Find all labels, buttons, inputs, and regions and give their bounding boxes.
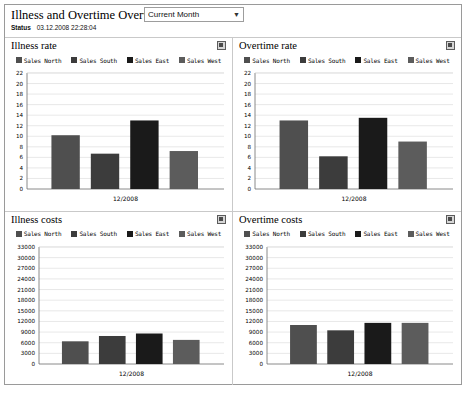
chart-canvas: 024681012141618202212/2008	[5, 67, 232, 211]
svg-text:6: 6	[19, 154, 23, 160]
legend-item[interactable]: Sales East	[355, 57, 397, 64]
legend-label: Sales East	[363, 57, 397, 64]
svg-text:12000: 12000	[245, 318, 263, 324]
period-select[interactable]: Current Month ▼	[144, 7, 244, 22]
svg-text:18: 18	[16, 91, 24, 97]
legend-item[interactable]: Sales East	[127, 57, 169, 64]
legend-item[interactable]: Sales North	[16, 230, 62, 237]
svg-text:22: 22	[244, 70, 251, 76]
legend-label: Sales North	[252, 57, 290, 64]
svg-text:12: 12	[244, 123, 251, 129]
bar	[290, 325, 317, 364]
legend-label: Sales South	[308, 230, 346, 237]
chart-canvas: 0300060009000120001500018000210002400027…	[233, 241, 461, 386]
svg-text:4: 4	[247, 165, 251, 171]
legend-item[interactable]: Sales West	[408, 57, 450, 64]
panel-title: Illness rate	[11, 40, 57, 51]
legend-item[interactable]: Sales East	[127, 230, 169, 237]
legend-label: Sales South	[308, 57, 346, 64]
panel-overtime-costs: Overtime costs Sales NorthSales SouthSal…	[233, 212, 461, 386]
chart-legend: Sales NorthSales SouthSales EastSales We…	[5, 228, 232, 240]
svg-text:30000: 30000	[245, 254, 263, 260]
bar	[364, 322, 391, 363]
legend-item[interactable]: Sales West	[408, 230, 450, 237]
maximize-icon[interactable]	[446, 215, 455, 224]
legend-label: Sales West	[187, 230, 221, 237]
svg-text:24000: 24000	[17, 275, 35, 281]
bar	[62, 341, 89, 364]
svg-text:20: 20	[16, 81, 24, 87]
legend-swatch-icon	[127, 231, 133, 237]
svg-text:0: 0	[31, 361, 35, 367]
legend-swatch-icon	[300, 57, 306, 63]
legend-item[interactable]: Sales North	[16, 57, 62, 64]
legend-swatch-icon	[244, 231, 250, 237]
svg-text:8: 8	[247, 144, 251, 150]
chart-canvas: 024681012141618202212/2008	[233, 67, 461, 211]
legend-item[interactable]: Sales North	[244, 57, 290, 64]
legend-swatch-icon	[300, 231, 306, 237]
svg-text:6000: 6000	[21, 339, 36, 345]
legend-swatch-icon	[71, 231, 77, 237]
bar	[398, 142, 427, 189]
svg-text:9000: 9000	[249, 329, 264, 335]
legend-swatch-icon	[127, 57, 133, 63]
legend-item[interactable]: Sales South	[71, 57, 117, 64]
maximize-icon[interactable]	[217, 41, 226, 50]
legend-item[interactable]: Sales North	[244, 230, 290, 237]
legend-item[interactable]: Sales South	[71, 230, 117, 237]
chart-legend: Sales NorthSales SouthSales EastSales We…	[5, 54, 232, 66]
svg-text:14: 14	[244, 112, 252, 118]
panel-overtime-rate: Overtime rate Sales NorthSales SouthSale…	[233, 38, 461, 212]
svg-text:27000: 27000	[245, 265, 263, 271]
svg-text:2: 2	[247, 175, 251, 181]
svg-text:2: 2	[19, 175, 23, 181]
status-timestamp: 03.12.2008 22:28:04	[37, 24, 97, 31]
dashboard-window: Illness and Overtime Overview Current Mo…	[4, 4, 462, 385]
svg-text:22: 22	[16, 70, 23, 76]
legend-label: Sales West	[187, 57, 221, 64]
status-label: Status	[11, 24, 31, 31]
legend-swatch-icon	[355, 57, 361, 63]
svg-text:18000: 18000	[245, 297, 263, 303]
dashboard-header: Illness and Overtime Overview Current Mo…	[5, 5, 461, 38]
bar	[99, 335, 126, 363]
legend-item[interactable]: Sales South	[300, 57, 346, 64]
bar	[130, 120, 158, 189]
svg-text:30000: 30000	[17, 254, 35, 260]
bar	[170, 151, 198, 189]
svg-text:0: 0	[247, 186, 251, 192]
svg-text:24000: 24000	[245, 275, 263, 281]
legend-item[interactable]: Sales West	[179, 230, 221, 237]
svg-text:27000: 27000	[17, 265, 35, 271]
period-select-value: Current Month	[148, 10, 230, 19]
svg-text:6: 6	[247, 154, 251, 160]
svg-text:12/2008: 12/2008	[342, 195, 367, 202]
panel-illness-costs: Illness costs Sales NorthSales SouthSale…	[5, 212, 233, 386]
legend-swatch-icon	[408, 57, 414, 63]
svg-text:21000: 21000	[17, 286, 35, 292]
bar	[359, 118, 388, 189]
panel-title: Overtime rate	[239, 40, 297, 51]
legend-item[interactable]: Sales South	[300, 230, 346, 237]
panel-title: Overtime costs	[239, 214, 302, 225]
legend-item[interactable]: Sales West	[179, 57, 221, 64]
legend-label: Sales North	[252, 230, 290, 237]
svg-text:12: 12	[16, 123, 23, 129]
maximize-icon[interactable]	[446, 41, 455, 50]
svg-text:20: 20	[244, 81, 252, 87]
svg-text:12/2008: 12/2008	[348, 370, 373, 377]
maximize-icon[interactable]	[217, 215, 226, 224]
svg-text:14: 14	[16, 112, 24, 118]
svg-text:4: 4	[19, 165, 23, 171]
bar	[402, 322, 429, 363]
svg-text:10: 10	[16, 133, 24, 139]
legend-item[interactable]: Sales East	[355, 230, 397, 237]
panel-illness-rate: Illness rate Sales NorthSales SouthSales…	[5, 38, 233, 212]
legend-swatch-icon	[16, 57, 22, 63]
bar	[91, 154, 119, 189]
status-line: Status 03.12.2008 22:28:04	[11, 24, 96, 31]
svg-text:9000: 9000	[21, 329, 36, 335]
legend-swatch-icon	[16, 231, 22, 237]
svg-text:12/2008: 12/2008	[113, 195, 138, 202]
